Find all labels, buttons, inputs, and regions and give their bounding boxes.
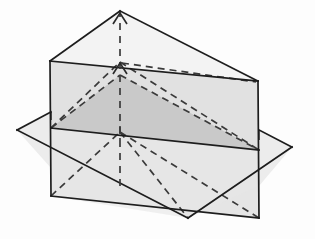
figure-root: Triangular prism intersected by a horizo…: [0, 0, 315, 239]
geometry-diagram: Triangular prism intersected by a horizo…: [0, 0, 315, 239]
